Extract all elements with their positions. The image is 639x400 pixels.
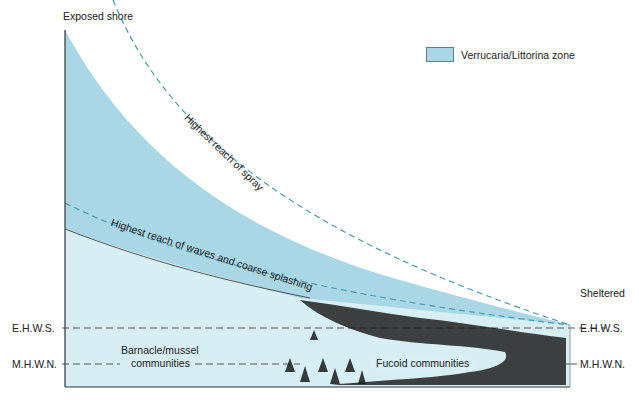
legend-swatch [426, 47, 454, 62]
barnacle-label-line2: communities [131, 358, 190, 369]
legend-label: Verrucaria/Littorina zone [461, 49, 575, 61]
ehws-right-label: E.H.W.S. [580, 323, 623, 334]
barnacle-label-line1: Barnacle/mussel [121, 345, 199, 356]
mhwn-right-label: M.H.W.N. [580, 359, 625, 370]
shore-zonation-diagram: Exposed shore Sheltered E.H.W.S. E.H.W.S… [0, 0, 639, 400]
ehws-left-label: E.H.W.S. [12, 323, 55, 334]
sheltered-label: Sheltered [580, 288, 625, 299]
legend: Verrucaria/Littorina zone [426, 47, 575, 62]
fucoid-label: Fucoid communities [376, 358, 469, 369]
mhwn-left-label: M.H.W.N. [12, 359, 57, 370]
exposed-shore-label: Exposed shore [63, 11, 133, 22]
